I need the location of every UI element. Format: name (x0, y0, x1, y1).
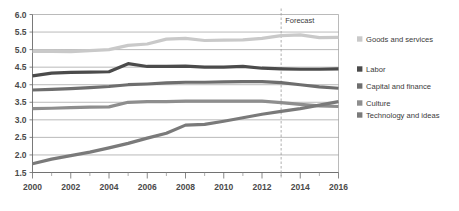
x-tick-label: 2000 (23, 182, 42, 192)
x-axis-ticks (33, 173, 339, 179)
y-tick-label: 4.5 (15, 62, 27, 72)
legend-label: Labor (366, 65, 386, 74)
forecast-label: Forecast (285, 16, 315, 25)
series-line-4 (33, 102, 339, 164)
x-tick-label: 2010 (214, 182, 233, 192)
chart-legend: Goods and servicesLaborCapital and finan… (357, 35, 440, 120)
x-tick-label: 2014 (291, 182, 310, 192)
series-line-2 (33, 82, 339, 90)
y-tick-label: 5.0 (15, 45, 27, 55)
legend-item-1: Labor (357, 65, 386, 74)
y-tick-label: 6.0 (15, 10, 27, 20)
legend-label: Capital and finance (366, 82, 431, 91)
legend-label: Goods and services (366, 35, 433, 44)
legend-swatch (357, 66, 362, 71)
y-tick-label: 3.0 (15, 115, 27, 125)
x-tick-label: 2004 (100, 182, 119, 192)
legend-swatch (357, 112, 362, 117)
y-tick-label: 4.0 (15, 80, 27, 90)
x-tick-label: 2012 (253, 182, 272, 192)
x-tick-label: 2002 (61, 182, 80, 192)
legend-swatch (357, 36, 362, 41)
y-tick-label: 2.0 (15, 150, 27, 160)
x-tick-label: 2006 (138, 182, 157, 192)
legend-item-0: Goods and services (357, 35, 433, 44)
chart-canvas: 6.05.55.04.54.03.53.02.52.01.5 200020022… (0, 0, 459, 211)
legend-label: Culture (366, 99, 390, 108)
y-axis-tick-labels: 6.05.55.04.54.03.53.02.52.01.5 (15, 10, 27, 178)
legend-item-3: Culture (357, 99, 390, 108)
legend-swatch (357, 83, 362, 88)
legend-swatch (357, 100, 362, 105)
series-line-1 (33, 64, 339, 76)
x-tick-label: 2008 (176, 182, 195, 192)
x-axis-tick-labels: 200020022004200620082010201220142016 (23, 182, 348, 192)
y-tick-label: 2.5 (15, 132, 27, 142)
y-tick-label: 5.5 (15, 27, 27, 37)
data-series-group (33, 35, 339, 164)
legend-item-2: Capital and finance (357, 82, 431, 91)
line-chart: 6.05.55.04.54.03.53.02.52.01.5 200020022… (0, 0, 459, 211)
legend-item-4: Technology and ideas (357, 111, 440, 120)
y-tick-label: 1.5 (15, 168, 27, 178)
x-tick-label: 2016 (329, 182, 348, 192)
legend-label: Technology and ideas (366, 111, 440, 120)
y-tick-label: 3.5 (15, 97, 27, 107)
series-line-0 (33, 35, 339, 52)
